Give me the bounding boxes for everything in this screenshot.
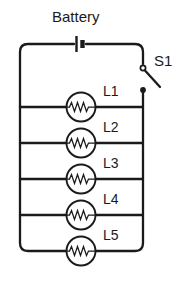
wire-top-right [86, 44, 143, 64]
switch-label: S1 [154, 53, 172, 68]
lamp-label-l2: L2 [103, 120, 119, 134]
switch-terminal-dot [140, 87, 146, 93]
circuit-schematic-canvas [0, 0, 181, 285]
switch-lever-icon[interactable] [145, 71, 160, 88]
circuit-diagram: Battery S1 L1 L2 L3 L4 L5 [0, 0, 181, 285]
lamp-label-l4: L4 [103, 192, 119, 206]
lamp-label-l3: L3 [103, 156, 119, 170]
wire-top-left [20, 44, 74, 107]
lamp-label-l1: L1 [103, 84, 119, 98]
lamp-label-l5: L5 [103, 228, 119, 242]
battery-label: Battery [52, 9, 100, 24]
